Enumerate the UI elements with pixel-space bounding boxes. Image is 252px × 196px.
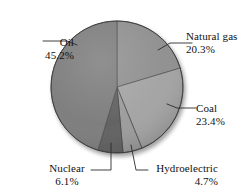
pie-label-hydroelectric-percent: 4.7%: [142, 175, 218, 188]
pie-label-natural-gas-name: Natural gas: [186, 30, 250, 43]
pie-label-natural-gas: Natural gas 20.3%: [186, 30, 250, 55]
pie-label-oil-percent: 45.2%: [14, 49, 74, 62]
pie-label-coal: Coal 23.4%: [196, 102, 248, 127]
pie-label-nuclear: Nuclear 6.1%: [38, 162, 96, 187]
pie-label-oil-name: Oil: [14, 36, 74, 49]
pie-label-natural-gas-percent: 20.3%: [186, 43, 250, 56]
pie-label-coal-percent: 23.4%: [196, 115, 248, 128]
pie-label-hydroelectric-name: Hydroelectric: [142, 162, 218, 175]
pie-label-hydroelectric: Hydroelectric 4.7%: [142, 162, 218, 187]
pie-chart: Oil 45.2% Natural gas 20.3% Coal 23.4% N…: [0, 0, 252, 196]
pie-label-oil: Oil 45.2%: [14, 36, 74, 61]
pie-label-nuclear-name: Nuclear: [38, 162, 96, 175]
pie-label-nuclear-percent: 6.1%: [38, 175, 96, 188]
pie-label-coal-name: Coal: [196, 102, 248, 115]
